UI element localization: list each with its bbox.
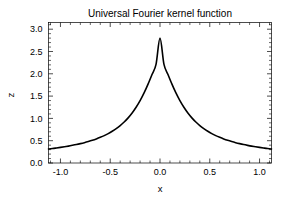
y-tick-label: 0.0 bbox=[30, 158, 43, 168]
x-tick-label: 0.5 bbox=[204, 167, 217, 177]
y-tick-label: 2.5 bbox=[30, 47, 43, 57]
y-tick-label: 3.0 bbox=[30, 24, 43, 34]
x-tick-label: 1.0 bbox=[253, 167, 266, 177]
x-tick-label: 0.0 bbox=[154, 167, 167, 177]
chart-canvas: Universal Fourier kernel function -1.0-0… bbox=[0, 0, 287, 201]
x-tick-label: -0.5 bbox=[102, 167, 118, 177]
y-tick-label: 1.0 bbox=[30, 114, 43, 124]
x-tick-label: -1.0 bbox=[53, 167, 69, 177]
y-axis-title: z bbox=[5, 92, 16, 97]
y-tick-label: 1.5 bbox=[30, 91, 43, 101]
chart-figure: Universal Fourier kernel function -1.0-0… bbox=[0, 0, 287, 201]
chart-title: Universal Fourier kernel function bbox=[88, 8, 232, 19]
chart-background bbox=[0, 0, 287, 201]
y-tick-label: 2.0 bbox=[30, 69, 43, 79]
x-axis-title: x bbox=[158, 183, 163, 194]
y-tick-label: 0.5 bbox=[30, 136, 43, 146]
